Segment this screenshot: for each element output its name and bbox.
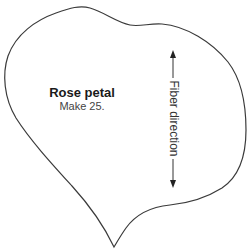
pattern-instruction: Make 25. xyxy=(59,100,104,112)
pattern-name: Rose petal xyxy=(49,85,115,100)
petal-outline xyxy=(5,7,246,247)
arrow-down-icon xyxy=(170,180,176,188)
arrow-up-icon xyxy=(170,50,176,58)
grain-label: Fiber direction xyxy=(167,80,181,156)
rose-petal-pattern: Rose petal Make 25. Fiber direction xyxy=(0,0,248,252)
grain-arrow: Fiber direction xyxy=(167,50,181,188)
